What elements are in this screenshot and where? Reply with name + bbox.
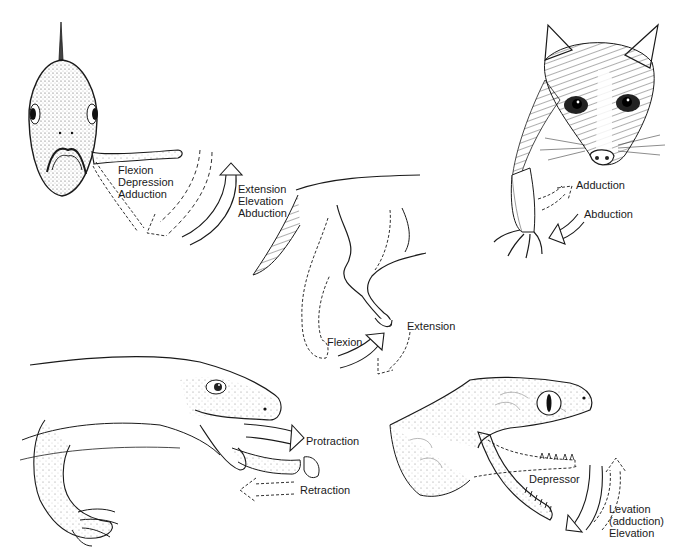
label-text: Flexion — [327, 336, 362, 348]
fish-flexion-label: Flexion Depression Adduction — [118, 164, 174, 200]
label-adduction: (adduction) — [609, 515, 664, 527]
dog-extension-label: Extension — [407, 320, 455, 332]
label-text: Extension — [407, 320, 455, 332]
label-text: Depressor — [529, 473, 580, 485]
snake-depressor-label: Depressor — [529, 473, 580, 485]
label-adduction: Adduction — [118, 188, 174, 200]
fish-extension-label: Extension Elevation Abduction — [238, 183, 287, 219]
label-extension: Extension — [238, 183, 287, 195]
label-elevation: Elevation — [609, 527, 664, 539]
lizard-retraction-label: Retraction — [300, 484, 350, 496]
label-depression: Depression — [118, 176, 174, 188]
limb-movement-diagram: Flexion Depression Adduction Extension E… — [0, 0, 684, 558]
snake-levation-label: Levation (adduction) Elevation — [609, 503, 664, 539]
label-elevation: Elevation — [238, 195, 287, 207]
opossum-illustration — [494, 25, 665, 258]
opossum-adduction-label: Adduction — [576, 179, 625, 191]
label-text: Retraction — [300, 484, 350, 496]
lizard-protraction-label: Protraction — [306, 435, 359, 447]
label-abduction: Abduction — [238, 207, 287, 219]
label-text: Protraction — [306, 435, 359, 447]
lizard-illustration — [20, 357, 319, 546]
snake-illustration — [390, 377, 626, 532]
opossum-abduction-label: Abduction — [584, 208, 633, 220]
dog-flexion-label: Flexion — [327, 336, 362, 348]
label-flexion: Flexion — [118, 164, 174, 176]
label-text: Adduction — [576, 179, 625, 191]
fish-illustration — [29, 22, 242, 245]
label-levation: Levation — [609, 503, 664, 515]
illustrations — [0, 0, 684, 558]
label-text: Abduction — [584, 208, 633, 220]
